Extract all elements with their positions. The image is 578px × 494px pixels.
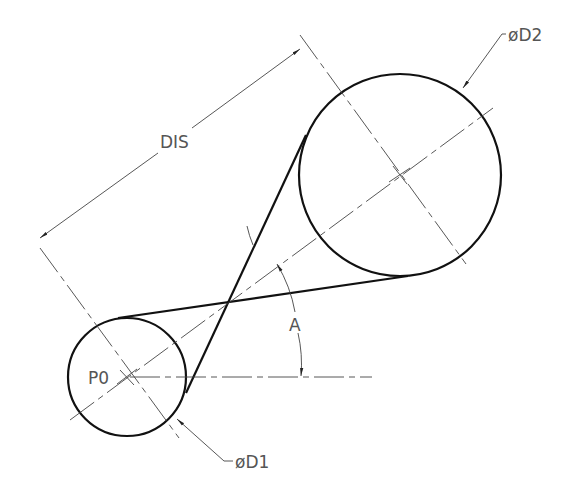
angle-arc [277,264,295,312]
diameter-large-label: øD2 [508,25,542,45]
large-center-cross-b [389,168,410,182]
belt-line-upper [118,276,408,318]
belt-line-crossing [186,135,306,393]
angle-label: A [289,315,301,335]
dis-label: DIS [160,132,189,152]
angle-arc-upper [247,226,253,245]
small-center-cross-a [120,370,134,385]
angle-arc-lower [298,333,302,376]
large-circle-perp-centerline [300,35,466,264]
diameter-small-label: øD1 [235,452,269,472]
belt-drive-drawing: DIS A P0 øD2 øD1 [0,0,578,494]
small-circle-perp-centerline [40,248,179,438]
d1-leader-line [177,419,233,461]
center-line-connecting [70,108,493,420]
dis-dimension-line-b [192,49,300,128]
dis-dimension-line-a [40,153,158,238]
origin-point-label: P0 [88,368,109,388]
d2-leader-line [463,34,506,88]
